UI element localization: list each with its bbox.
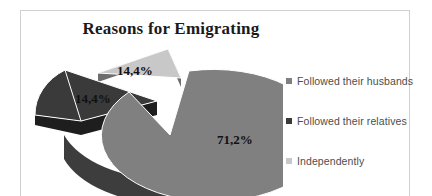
pie-slice-husbands-top [101, 69, 283, 196]
legend-label-independently: Independently [297, 155, 364, 167]
legend-swatch-husbands [286, 78, 292, 84]
pie-label-husbands: 71,2% [217, 132, 253, 148]
legend-item-independently[interactable]: Independently [286, 141, 432, 181]
pie-label-independently: 14,4% [117, 63, 153, 79]
pie-label-relatives: 14,4% [75, 91, 111, 107]
chart-legend: Followed their husbands Followed their r… [286, 61, 432, 181]
legend-label-husbands: Followed their husbands [297, 75, 413, 87]
chart-title: Reasons for Emigrating [21, 19, 321, 39]
legend-item-husbands[interactable]: Followed their husbands [286, 61, 432, 101]
legend-item-relatives[interactable]: Followed their relatives [286, 101, 432, 141]
chart-frame: Reasons for Emigrating [20, 10, 410, 196]
legend-label-relatives: Followed their relatives [297, 115, 407, 127]
legend-swatch-independently [286, 158, 292, 164]
pie-chart: 14,4% 14,4% 71,2% [21, 39, 283, 196]
legend-swatch-relatives [286, 118, 292, 124]
